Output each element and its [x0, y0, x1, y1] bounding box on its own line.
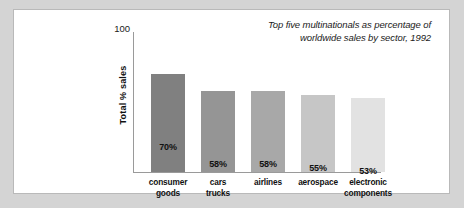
bar-rect	[301, 95, 335, 172]
chart-card: Top five multinationals as percentage of…	[13, 9, 450, 194]
y-axis-tick-100: 100	[108, 23, 130, 34]
category-label-line: trucks	[185, 188, 251, 199]
category-label-electronic-components: electroniccomponents	[335, 177, 401, 198]
bar-value-label: 55%	[301, 163, 335, 173]
category-label-line: electronic	[335, 177, 401, 188]
bar-value-label: 58%	[201, 159, 235, 169]
page-background: Top five multinationals as percentage of…	[0, 0, 464, 208]
y-axis-title-label: Total % sales	[118, 66, 128, 125]
bar-rect	[151, 74, 185, 172]
x-axis-line	[133, 172, 381, 173]
bar-value-label: 53%	[351, 166, 385, 176]
bar-value-label: 70%	[151, 142, 185, 152]
bar-consumer-goods[interactable]: 70%	[151, 74, 185, 172]
bar-electronic-components[interactable]: 53%	[351, 98, 385, 172]
category-label-line: components	[335, 188, 401, 199]
y-axis-title: Total % sales	[116, 40, 130, 150]
bar-rect	[351, 98, 385, 172]
bar-cars-trucks[interactable]: 58%	[201, 91, 235, 172]
y-axis-line	[133, 32, 134, 172]
bar-value-label: 58%	[251, 159, 285, 169]
bar-aerospace[interactable]: 55%	[301, 95, 335, 172]
bar-airlines[interactable]: 58%	[251, 91, 285, 172]
plot-area: 70%58%58%55%53% consumergoodscarstrucksa…	[133, 23, 383, 173]
